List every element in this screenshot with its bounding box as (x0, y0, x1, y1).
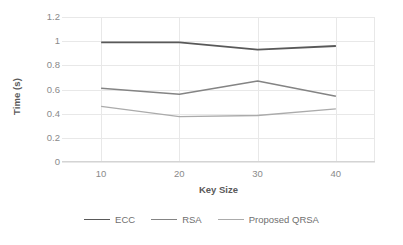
x-axis-title: Key Size (62, 184, 375, 195)
x-tick-label: 30 (238, 168, 278, 179)
legend-label: Proposed QRSA (249, 214, 319, 225)
legend-label: ECC (115, 214, 135, 225)
x-tick-label: 20 (159, 168, 199, 179)
y-axis-tick-labels: 1.210.80.60.40.20 (28, 10, 60, 168)
y-axis-title: Time (s) (8, 60, 26, 132)
x-tick-label: 40 (316, 168, 356, 179)
y-tick-label: 1 (28, 36, 60, 46)
plot-area (62, 17, 375, 162)
legend-item-proposed-qrsa[interactable]: Proposed QRSA (218, 214, 319, 225)
y-tick-label: 0.4 (28, 109, 60, 119)
y-axis-title-text: Time (s) (12, 77, 23, 114)
legend-label: RSA (182, 214, 202, 225)
series-line-proposed-qrsa (101, 106, 336, 116)
legend-line-icon (151, 219, 177, 220)
x-tick-label: 10 (81, 168, 121, 179)
y-tick-label: 0 (28, 157, 60, 167)
x-axis-tick-labels: 10203040 (62, 168, 375, 182)
legend-item-ecc[interactable]: ECC (84, 214, 135, 225)
legend-item-rsa[interactable]: RSA (151, 214, 202, 225)
series-line-rsa (101, 81, 336, 96)
series-line-ecc (101, 42, 336, 49)
gridline-y (62, 162, 375, 163)
legend-line-icon (218, 219, 244, 220)
x-axis-title-text: Key Size (199, 184, 238, 195)
series-container (62, 17, 375, 162)
chart-legend: ECCRSAProposed QRSA (0, 214, 403, 225)
y-tick-label: 1.2 (28, 12, 60, 22)
legend-line-icon (84, 219, 110, 220)
y-tick-label: 0.2 (28, 133, 60, 143)
y-tick-label: 0.8 (28, 60, 60, 70)
line-chart: Time (s) 1.210.80.60.40.20 10203040 Key … (0, 0, 403, 245)
y-tick-label: 0.6 (28, 85, 60, 95)
